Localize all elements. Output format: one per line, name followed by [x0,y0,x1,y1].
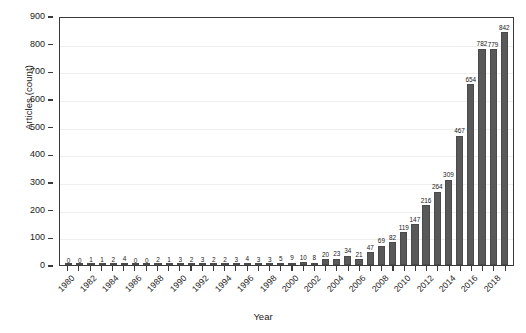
bar-value-label: 3 [201,256,205,263]
bar-value-label: 34 [344,247,351,254]
bar-value-label: 779 [488,41,499,48]
bar-value-label: 216 [421,197,432,204]
bar [467,84,474,265]
x-label-slot: 2006 [354,271,365,309]
bar [445,180,452,265]
bar-value-label: 147 [410,216,421,223]
bar [188,263,195,265]
bar-column: 21 [353,18,364,265]
bar-value-label: 21 [355,251,362,258]
bar [322,259,329,265]
bar-column: 23 [331,18,342,265]
y-tick-mark [48,210,53,211]
bar [478,49,485,265]
bar-value-label: 3 [234,256,238,263]
bar-column: 309 [443,18,454,265]
bar-column: 654 [465,18,476,265]
bar [87,263,94,265]
bar-column: 0 [130,18,141,265]
bar-column: 147 [409,18,420,265]
x-label-slot: 2010 [399,271,410,309]
bar-column: 4 [242,18,253,265]
bar-column: 2 [186,18,197,265]
bar [400,232,407,265]
x-label-slot: 2016 [466,271,477,309]
bar-column: 20 [320,18,331,265]
x-label-slot: 2008 [376,271,387,309]
bar-value-label: 4 [246,255,250,262]
bar [378,246,385,265]
bar [300,262,307,265]
x-axis-tick-labels: 1980198219841986198819901992199419961998… [59,271,514,309]
x-label-slot: 1986 [129,271,140,309]
bar-value-label: 0 [145,257,149,264]
x-label-slot: 1998 [264,271,275,309]
bar [177,263,184,265]
x-label-slot: 2002 [309,271,320,309]
bar-column: 3 [253,18,264,265]
bar-column: 779 [488,18,499,265]
bar [277,263,284,265]
bar-value-label: 2 [156,256,160,263]
bar-value-label: 8 [313,254,317,261]
y-tick-mark [48,265,53,266]
bar-value-label: 69 [378,237,385,244]
bar [255,263,262,265]
bar-column: 3 [231,18,242,265]
bar-column: 5 [275,18,286,265]
x-label-slot: 1982 [84,271,95,309]
bar-column: 2 [108,18,119,265]
x-label-slot: 1996 [242,271,253,309]
bar-value-label: 2 [190,256,194,263]
bar-value-label: 467 [454,127,465,134]
y-tick-label: 200 [30,206,45,215]
bar-value-label: 1 [89,256,93,263]
bar-chart-figure: Articles (count) 01002003004005006007008… [0,0,526,333]
y-tick-label: 500 [30,123,45,132]
bar-value-label: 2 [223,256,227,263]
x-label-slot: 1988 [152,271,163,309]
bar-value-label: 20 [322,251,329,258]
bar-column: 3 [264,18,275,265]
bar-value-label: 4 [123,255,127,262]
bar-column: 47 [365,18,376,265]
y-tick-mark [48,72,53,73]
bar [166,263,173,265]
bar-value-label: 3 [179,256,183,263]
x-label-slot: 1980 [62,271,73,309]
bar-value-label: 309 [443,171,454,178]
bar-column: 0 [141,18,152,265]
bar [121,263,128,265]
bar-value-label: 3 [257,256,261,263]
bar [110,263,117,265]
y-tick-label: 700 [30,67,45,76]
y-tick-mark [48,99,53,100]
bar [244,263,251,265]
bar [411,224,418,265]
bar-column: 1 [85,18,96,265]
bar-value-label: 1 [100,256,104,263]
y-axis-tick-labels: 0100200300400500600700800900 [16,17,45,266]
bar-column: 0 [74,18,85,265]
y-tick-label: 400 [30,150,45,159]
bar-column: 1 [164,18,175,265]
bar [210,263,217,265]
bar [288,263,295,265]
y-tick-mark [48,44,53,45]
bar-value-label: 264 [432,183,443,190]
x-label-slot: 1994 [219,271,230,309]
y-tick-mark [48,155,53,156]
bar [233,263,240,265]
bar-value-label: 23 [333,250,340,257]
bar-value-label: 782 [477,40,488,47]
plot-area: 0011240021323223433591082023342147698211… [59,17,514,266]
y-tick-mark [48,127,53,128]
x-label-slot: 1984 [107,271,118,309]
x-label-slot: 2012 [421,271,432,309]
bar-value-label: 47 [367,244,374,251]
y-tick-mark [48,16,53,17]
bar-value-label: 842 [499,24,510,31]
x-label-slot: 1990 [174,271,185,309]
y-tick-label: 0 [40,261,45,270]
y-tick-mark [48,182,53,183]
